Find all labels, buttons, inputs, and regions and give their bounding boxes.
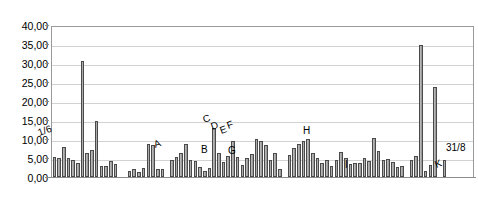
bar <box>179 153 183 177</box>
bar <box>429 165 433 177</box>
bar <box>273 153 277 177</box>
bar <box>76 163 80 177</box>
bar <box>443 160 447 177</box>
y-axis-tickmark <box>45 25 49 26</box>
y-axis-tickmark <box>45 101 49 102</box>
bar <box>208 168 212 177</box>
bar <box>377 151 381 177</box>
y-axis-tick-labels: 0,005,0010,0015,0020,0025,0030,0035,0040… <box>0 0 48 207</box>
y-axis-tick-5: 5,00 <box>4 154 48 164</box>
bar <box>90 150 94 177</box>
bar <box>189 160 193 177</box>
bar <box>236 157 240 177</box>
y-axis-tick-35: 35,00 <box>4 40 48 50</box>
y-axis-tickmark <box>45 158 49 159</box>
y-axis-tick-40: 40,00 <box>4 21 48 31</box>
y-axis-tick-30: 30,00 <box>4 59 48 69</box>
bar <box>386 159 390 177</box>
y-axis-tick-25: 25,00 <box>4 78 48 88</box>
bar <box>147 144 151 177</box>
bar <box>302 141 306 177</box>
y-axis-tick-0: 0,00 <box>4 173 48 183</box>
bar <box>269 160 273 177</box>
bar <box>320 163 324 177</box>
bar <box>198 167 202 177</box>
bar <box>330 166 334 177</box>
bar <box>217 153 221 177</box>
bar <box>339 152 343 177</box>
bar <box>264 145 268 177</box>
bar <box>316 158 320 177</box>
annotation-b: B <box>201 145 208 155</box>
bar <box>288 155 292 177</box>
bar <box>255 139 259 177</box>
bar-series <box>52 27 473 177</box>
bar <box>391 162 395 177</box>
bar <box>278 169 282 177</box>
plot-area <box>51 26 474 178</box>
bar <box>95 121 99 177</box>
bar <box>297 144 301 177</box>
bar <box>311 153 315 177</box>
bar <box>71 160 75 177</box>
y-axis-tickmark <box>45 82 49 83</box>
bar <box>226 156 230 177</box>
bar <box>57 158 61 177</box>
bar <box>325 160 329 177</box>
bar <box>372 138 376 177</box>
annotation-i: I <box>345 160 348 170</box>
bar <box>67 158 71 177</box>
bar <box>194 161 198 177</box>
bar <box>222 162 226 177</box>
bar <box>142 168 146 178</box>
annotation-31-8: 31/8 <box>446 143 465 153</box>
bar <box>259 141 263 177</box>
bar <box>353 163 357 177</box>
bar <box>212 128 216 177</box>
annotation-g: G <box>228 146 236 156</box>
bar <box>306 139 310 177</box>
bar <box>81 61 85 177</box>
bar <box>396 167 400 177</box>
bar <box>349 164 353 177</box>
bar <box>419 45 423 177</box>
bar <box>292 148 296 177</box>
bar <box>363 158 367 177</box>
bar <box>410 160 414 177</box>
bar-chart: 0,005,0010,0015,0020,0025,0030,0035,0040… <box>0 0 478 207</box>
bar <box>85 153 89 177</box>
annotation-h: H <box>303 126 310 136</box>
bar <box>161 169 165 177</box>
bar <box>184 144 188 177</box>
y-axis-tickmark <box>45 63 49 64</box>
y-axis-tickmark <box>45 44 49 45</box>
bar <box>358 163 362 177</box>
y-axis-tick-20: 20,00 <box>4 97 48 107</box>
bar <box>151 145 155 177</box>
bar <box>132 169 136 177</box>
bar <box>62 147 66 177</box>
x-axis-line <box>48 177 476 178</box>
bar <box>335 160 339 177</box>
bar <box>250 154 254 177</box>
bar <box>53 157 57 177</box>
y-axis-tickmark <box>45 139 49 140</box>
bar <box>114 164 118 177</box>
bar <box>100 166 104 177</box>
bar <box>170 160 174 177</box>
bar <box>104 166 108 177</box>
bar <box>367 161 371 177</box>
bar <box>109 161 113 177</box>
bar <box>414 156 418 177</box>
bar <box>400 166 404 177</box>
bar <box>245 158 249 177</box>
bar <box>175 157 179 177</box>
bar <box>241 165 245 177</box>
bar <box>156 169 160 177</box>
y-axis-tickmark <box>45 120 49 121</box>
bar <box>382 160 386 177</box>
